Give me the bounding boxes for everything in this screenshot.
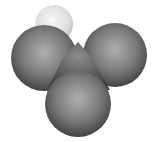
molecule-model — [0, 0, 155, 142]
chlorine-atom-bottom — [45, 71, 111, 137]
